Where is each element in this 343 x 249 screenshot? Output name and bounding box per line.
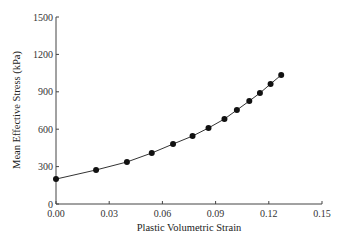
data-point-marker <box>246 98 252 104</box>
data-point-marker <box>170 141 176 147</box>
x-tick-label: 0.06 <box>154 208 172 219</box>
data-point-marker <box>206 125 212 131</box>
plot-area <box>53 72 284 182</box>
data-point-marker <box>268 81 274 87</box>
y-tick-label: 0 <box>48 199 53 210</box>
y-tick-label: 1200 <box>33 49 53 60</box>
y-tick-label: 1500 <box>33 12 53 23</box>
data-point-marker <box>149 150 155 156</box>
stress-strain-chart: 0.000.030.060.090.120.150300600900120015… <box>0 0 343 249</box>
x-tick-label: 0.03 <box>100 208 118 219</box>
data-point-marker <box>93 167 99 173</box>
x-tick-label: 0.00 <box>47 208 65 219</box>
x-axis-label: Plastic Volumetric Strain <box>137 222 242 233</box>
x-tick-label: 0.09 <box>207 208 225 219</box>
data-point-marker <box>278 72 284 78</box>
x-tick-label: 0.15 <box>313 208 331 219</box>
data-point-marker <box>53 176 59 182</box>
data-point-marker <box>234 107 240 113</box>
data-point-marker <box>257 90 263 96</box>
data-point-marker <box>221 116 227 122</box>
y-tick-label: 300 <box>38 161 53 172</box>
axes: 0.000.030.060.090.120.150300600900120015… <box>33 12 331 220</box>
y-tick-label: 900 <box>38 86 53 97</box>
data-point-marker <box>190 133 196 139</box>
y-tick-label: 600 <box>38 124 53 135</box>
data-point-marker <box>124 159 130 165</box>
series-line <box>56 75 281 179</box>
x-tick-label: 0.12 <box>260 208 278 219</box>
y-axis-label: Mean Effective Stress (kPa) <box>11 51 23 169</box>
